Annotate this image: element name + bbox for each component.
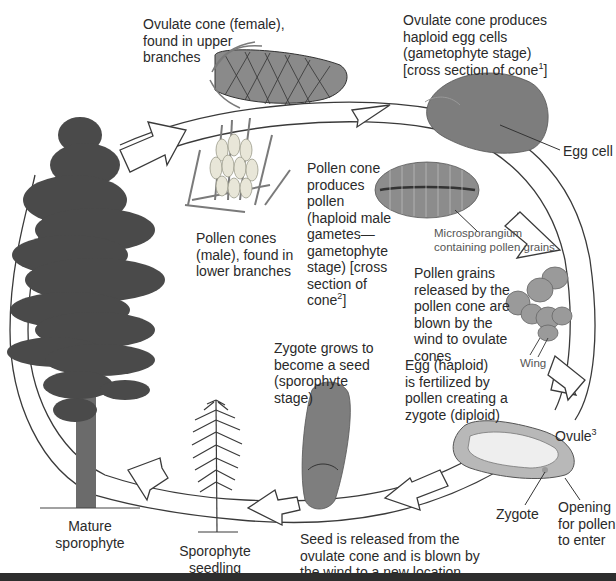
footnote-3: 3 <box>592 427 597 437</box>
bracket-close: ] <box>543 62 547 78</box>
arrow-tree-to-pollen <box>120 122 186 172</box>
bottom-bar <box>0 573 616 581</box>
label-pollen-grains: Pollen grains released by the pollen con… <box>414 265 534 364</box>
label-pollen-cone-produces: Pollen cone produces pollen (haploid mal… <box>307 160 417 309</box>
label-egg-cell: Egg cell <box>563 143 613 160</box>
label-ovulate-cone: Ovulate cone (female), found in upper br… <box>143 16 313 66</box>
mature-tree-illustration <box>7 117 165 508</box>
ovulate-cross-section-illustration <box>425 73 560 153</box>
label-seedling: Sporophyte seedling <box>170 543 260 576</box>
seedling-illustration <box>192 400 242 532</box>
bracket-close: ] <box>342 292 346 308</box>
label-ovulate-cross-section: Ovulate cone produces haploid egg cells … <box>403 12 613 78</box>
opening-leader-line <box>565 478 580 500</box>
label-fertilization: Egg (haploid) is fertilized by pollen cr… <box>405 357 535 423</box>
arrow-to-cross-section <box>352 105 390 127</box>
label-mature-sporophyte: Mature sporophyte <box>40 518 140 551</box>
label-zygote: Zygote <box>496 506 539 523</box>
label-opening: Opening for pollen to enter <box>558 499 616 549</box>
label-microsporangium: Microsporangium containing pollen grains <box>434 226 614 254</box>
arrow-to-seed-release <box>385 470 448 510</box>
arrow-to-seedling <box>248 490 300 525</box>
arrow-to-mature <box>128 458 168 500</box>
label-pollen-cones: Pollen cones (male), found in lower bran… <box>196 230 316 280</box>
label-ovule: Ovule3 <box>555 428 597 445</box>
label-pollen-cone-produces-text: Pollen cone produces pollen (haploid mal… <box>307 160 391 308</box>
label-ovulate-cross-section-text: Ovulate cone produces haploid egg cells … <box>403 12 547 78</box>
label-seed: Zygote grows to become a seed (sporophyt… <box>274 340 404 406</box>
label-ovule-text: Ovule <box>555 428 592 444</box>
wing-leader-line-2 <box>538 338 548 357</box>
